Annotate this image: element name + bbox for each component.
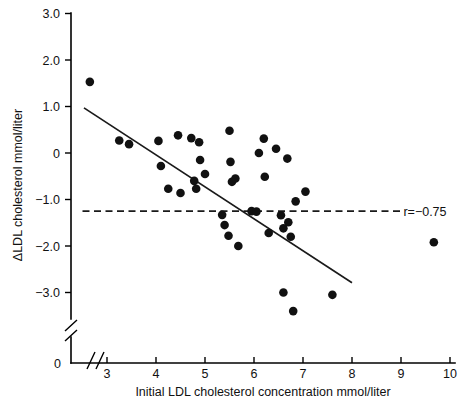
data-point	[196, 156, 205, 165]
data-point	[86, 78, 95, 87]
data-point	[164, 185, 173, 194]
y-axis-tick-labels: 3.02.01.00−1.0−2.0−3.0	[35, 7, 60, 300]
annotation-correlation: r=−0.75	[403, 205, 446, 219]
data-point	[289, 307, 298, 316]
x-axis-title: Initial LDL cholesterol concentration mm…	[135, 385, 390, 399]
data-point	[301, 187, 310, 196]
data-point	[272, 145, 281, 154]
data-point	[252, 207, 261, 216]
x-axis-break-icon	[87, 352, 104, 369]
x-tick-label: 5	[202, 367, 209, 381]
data-point	[125, 140, 134, 149]
data-point	[115, 136, 124, 145]
data-point	[176, 189, 185, 198]
x-tick-label: 10	[443, 367, 457, 381]
x-tick-label: 3	[104, 367, 111, 381]
data-point	[283, 154, 292, 163]
data-point	[192, 185, 201, 194]
chart-annotations: r=−0.75	[403, 205, 446, 219]
y-tick-label: 2.0	[43, 54, 60, 68]
y-axis-title: ΔLDL cholesterol mmol/liter	[11, 109, 25, 261]
data-point	[279, 288, 288, 297]
y-tick-label: −3.0	[35, 286, 60, 300]
data-point	[190, 177, 199, 186]
data-point	[284, 218, 293, 227]
data-point	[231, 174, 240, 183]
y-tick-label: 0	[53, 147, 60, 161]
chart-axes	[65, 13, 455, 369]
y-axis-ticks	[65, 14, 71, 293]
y-tick-label: −1.0	[35, 193, 60, 207]
data-point	[260, 134, 269, 143]
x-axis-tick-labels: 345678910	[104, 367, 457, 381]
data-point	[277, 211, 286, 220]
data-point	[201, 170, 210, 179]
y-tick-label: −2.0	[35, 240, 60, 254]
x-tick-label: 8	[349, 367, 356, 381]
data-point	[154, 137, 163, 146]
data-point	[264, 229, 273, 238]
chart-canvas: 3.02.01.00−1.0−2.0−3.0 345678910 r=−0.75…	[0, 0, 469, 407]
regression-line	[84, 108, 352, 283]
y-tick-label: 1.0	[43, 100, 60, 114]
data-point	[430, 238, 439, 247]
regression-line-group	[84, 108, 352, 283]
data-point	[226, 158, 235, 167]
x-tick-label: 9	[398, 367, 405, 381]
x-tick-label: 4	[153, 367, 160, 381]
data-point	[157, 162, 166, 171]
data-point	[255, 149, 264, 158]
data-point	[225, 126, 234, 135]
data-point	[291, 197, 300, 206]
x-tick-label: 7	[300, 367, 307, 381]
data-point	[286, 232, 295, 241]
data-point	[195, 138, 204, 147]
data-point	[234, 242, 243, 251]
data-point	[187, 134, 196, 143]
data-point	[218, 211, 227, 220]
x-axis-ticks	[107, 357, 450, 363]
data-point	[220, 221, 229, 230]
data-points-group	[86, 78, 439, 316]
data-point	[224, 231, 233, 240]
data-point	[260, 172, 269, 181]
y-tick-label: 3.0	[43, 7, 60, 21]
data-point	[328, 291, 337, 300]
data-point	[174, 131, 183, 140]
x-tick-label: 6	[251, 367, 258, 381]
y-axis-origin-label: 0	[54, 357, 61, 371]
scatter-plot-figure: 3.02.01.00−1.0−2.0−3.0 345678910 r=−0.75…	[0, 0, 469, 407]
